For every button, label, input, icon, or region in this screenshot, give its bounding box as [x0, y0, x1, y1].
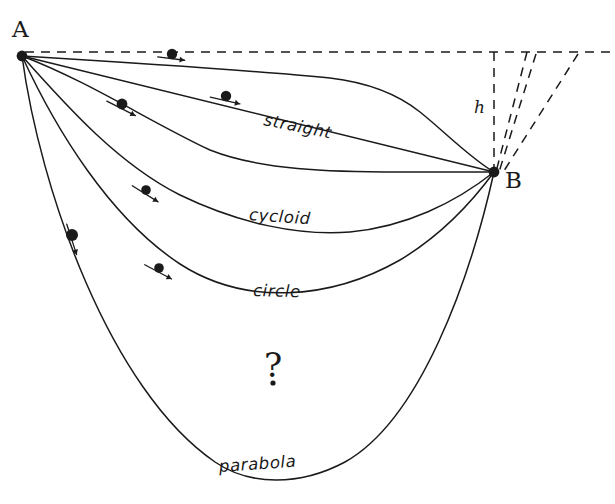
bead-on-parabola	[66, 229, 78, 241]
curve-label-cycloid: cycloid	[248, 207, 311, 228]
dashed-line-incline-3	[502, 54, 578, 174]
curve-parabola	[22, 56, 494, 480]
unknown-curve-question-mark: ?	[264, 348, 282, 382]
velocity-arrow-head	[234, 100, 240, 106]
dashed-construction-lines	[25, 52, 612, 174]
point-b-label: B	[505, 169, 522, 192]
bead-on-circle	[154, 263, 164, 273]
dashed-line-incline-1	[496, 52, 527, 172]
curve-circle	[22, 56, 494, 293]
bead-on-cycloid	[141, 185, 151, 195]
dashed-line-incline-2	[499, 54, 536, 172]
descent-curves	[22, 56, 494, 480]
endpoint-dot-b	[489, 167, 500, 178]
curve-label-circle: circle	[253, 283, 301, 301]
figure-canvas	[0, 0, 615, 504]
bead-on-straight	[221, 91, 231, 101]
bead-markers	[66, 49, 240, 280]
point-a-label: A	[12, 18, 29, 41]
velocity-arrow-head	[179, 57, 184, 63]
brachistochrone-figure: A B h ? straight cycloid circle parabola	[0, 0, 615, 504]
bead-on-top-unlabeled-path	[167, 49, 177, 59]
endpoint-dot-a	[17, 51, 28, 62]
bead-on-second-unlabeled-path	[117, 99, 128, 110]
height-h-label: h	[474, 99, 485, 116]
